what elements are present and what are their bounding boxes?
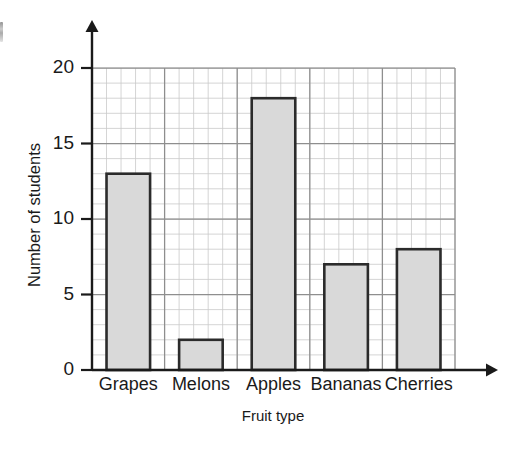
x-axis-label-grapes: Grapes (99, 374, 158, 394)
y-axis-tick-labels: 20151050 (53, 56, 74, 379)
y-axis-ticks (81, 68, 92, 370)
x-axis-label-cherries: Cherries (385, 374, 453, 394)
chart-canvas: 20151050 GrapesMelonsApplesBananasCherri… (0, 0, 510, 449)
x-axis-label-melons: Melons (172, 374, 230, 394)
x-axis-title: Fruit type (242, 407, 305, 424)
y-axis-arrow-icon (86, 20, 99, 32)
bar-cherries (397, 249, 441, 370)
bar-chart-figure: 20151050 GrapesMelonsApplesBananasCherri… (0, 0, 510, 449)
bar-melons (179, 340, 223, 370)
x-axis-arrow-icon (486, 364, 498, 377)
y-tick-label-15: 15 (53, 132, 74, 153)
y-tick-label-0: 0 (63, 358, 74, 379)
y-tick-label-10: 10 (53, 207, 74, 228)
x-axis-label-apples: Apples (246, 374, 301, 394)
y-tick-label-5: 5 (63, 283, 74, 304)
x-axis-label-bananas: Bananas (311, 374, 382, 394)
x-axis-category-labels: GrapesMelonsApplesBananasCherries (99, 374, 453, 394)
bar-apples (252, 98, 296, 370)
scan-edge-artifact (0, 22, 3, 42)
y-axis-title: Number of students (25, 143, 43, 287)
bar-bananas (324, 264, 368, 370)
y-tick-label-20: 20 (53, 56, 74, 77)
bar-grapes (107, 174, 151, 370)
